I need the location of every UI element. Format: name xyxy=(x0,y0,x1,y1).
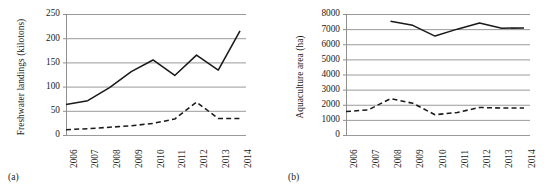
x-tick-label: 2006 xyxy=(350,149,359,168)
x-tick-label: 2009 xyxy=(135,149,144,168)
panel-caption-b: (b) xyxy=(288,172,299,182)
x-tick-label: 2012 xyxy=(483,149,492,168)
panel-a: Freshwater landings (kilotons) 050100150… xyxy=(0,0,280,192)
x-tick-label: 2013 xyxy=(505,149,514,168)
x-tick-label: 2007 xyxy=(91,149,100,168)
x-tick-label: 2012 xyxy=(200,149,209,168)
x-tick-label: 2011 xyxy=(178,150,187,168)
panel-b: Aquaculture area (ha) 010002000300040005… xyxy=(280,0,560,192)
x-tick-label: 2008 xyxy=(394,149,403,168)
x-tick-label: 2011 xyxy=(461,150,470,168)
x-tick-label: 2009 xyxy=(416,149,425,168)
x-tick-label: 2007 xyxy=(372,149,381,168)
x-axis-tick-labels-b: 200620072008200920102011201220132014 xyxy=(280,0,560,192)
x-tick-label: 2010 xyxy=(157,149,166,168)
panel-caption-a: (a) xyxy=(8,172,19,182)
x-axis-tick-labels-a: 200620072008200920102011201220132014 xyxy=(0,0,280,192)
figure-two-panel-line-charts: Freshwater landings (kilotons) 050100150… xyxy=(0,0,560,192)
x-tick-label: 2010 xyxy=(439,149,448,168)
x-tick-label: 2014 xyxy=(244,149,253,168)
x-tick-label: 2008 xyxy=(113,149,122,168)
x-tick-label: 2006 xyxy=(70,149,79,168)
x-tick-label: 2014 xyxy=(528,149,537,168)
x-tick-label: 2013 xyxy=(222,149,231,168)
